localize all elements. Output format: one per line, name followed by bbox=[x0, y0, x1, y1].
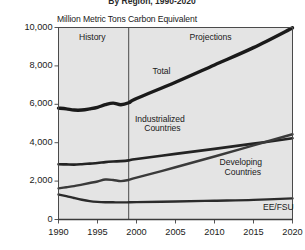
x-tick-label: 2010 bbox=[195, 227, 235, 237]
x-tick-label: 1995 bbox=[78, 227, 118, 237]
x-tick-label: 2000 bbox=[117, 227, 157, 237]
x-tick-label: 2015 bbox=[234, 227, 274, 237]
annotation-label: EE/FSU bbox=[263, 202, 294, 212]
annotation-label: Countries bbox=[225, 167, 261, 177]
x-tick-label: 2020 bbox=[273, 227, 305, 237]
y-tick-label: 10,000 bbox=[9, 22, 53, 32]
y-tick-label: 4,000 bbox=[9, 137, 53, 147]
annotation-label: History bbox=[79, 32, 105, 42]
y-tick-label: 8,000 bbox=[9, 60, 53, 70]
annotation-label: Total bbox=[152, 66, 170, 76]
x-tick-label: 2005 bbox=[156, 227, 196, 237]
y-tick-label: 6,000 bbox=[9, 98, 53, 108]
y-tick-label: 0 bbox=[9, 214, 53, 224]
chart-figure: By Region, 1990-2020 Million Metric Tons… bbox=[0, 0, 304, 250]
annotation-label: Countries bbox=[144, 123, 180, 133]
y-tick-label: 2,000 bbox=[9, 175, 53, 185]
x-tick-label: 1990 bbox=[39, 227, 79, 237]
annotation-label: Projections bbox=[190, 32, 232, 42]
